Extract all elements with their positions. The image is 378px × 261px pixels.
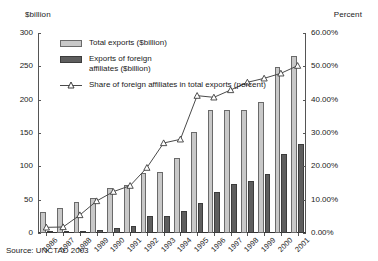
left-tick-mark <box>38 33 41 34</box>
x-tick-mark <box>147 233 148 236</box>
share-line-marker <box>94 198 100 204</box>
x-axis-label: 1995 <box>192 236 210 254</box>
right-tick-label: 40.00% <box>311 96 338 104</box>
left-axis-title: $billion <box>25 10 51 19</box>
right-tick-label: 60.00% <box>311 29 338 37</box>
left-tick-label: 0 <box>29 229 33 237</box>
x-axis-label: 1994 <box>175 236 193 254</box>
x-axis-label: 2001 <box>293 236 311 254</box>
left-tick-label: 200 <box>20 96 33 104</box>
left-tick-mark <box>38 200 41 201</box>
share-line-marker <box>278 70 284 76</box>
legend-item-share-line: Share of foreign affiliates in total exp… <box>60 80 266 90</box>
right-tick-label: 30.00% <box>311 129 338 137</box>
line-marker-icon <box>60 81 82 90</box>
legend-label-affiliate-exports: Exports of foreign affiliates ($billion) <box>89 54 152 74</box>
x-tick-mark <box>63 233 64 236</box>
right-tick-label: 20.00% <box>311 162 338 170</box>
right-axis-title: Percent <box>334 10 362 19</box>
share-line-marker <box>110 189 116 195</box>
share-line-marker <box>144 165 150 171</box>
x-axis-label: 1996 <box>209 236 227 254</box>
right-tick-mark <box>303 66 306 67</box>
x-axis-label: 1998 <box>242 236 260 254</box>
x-axis-label: 1993 <box>159 236 177 254</box>
x-axis-label: 1997 <box>226 236 244 254</box>
legend-label-total-exports: Total exports ($billion) <box>89 38 167 48</box>
right-tick-label: 10.00% <box>311 196 338 204</box>
x-tick-mark <box>97 233 98 236</box>
left-tick-label: 100 <box>20 162 33 170</box>
right-tick-label: 50.00% <box>311 62 338 70</box>
share-line-marker <box>177 136 183 142</box>
right-tick-mark <box>303 133 306 134</box>
legend-item-total-exports: Total exports ($billion) <box>60 38 266 48</box>
source-note: Source: UNCTAD 2003 <box>6 246 89 255</box>
legend-item-affiliate-exports: Exports of foreign affiliates ($billion) <box>60 54 266 74</box>
x-tick-mark <box>214 233 215 236</box>
left-tick-mark <box>38 66 41 67</box>
left-tick-label: 150 <box>20 129 33 137</box>
left-tick-mark <box>38 166 41 167</box>
right-tick-label: 0.00% <box>311 229 334 237</box>
right-tick-mark <box>303 100 306 101</box>
share-line-marker <box>295 63 301 69</box>
right-tick-mark <box>303 233 306 234</box>
x-tick-mark <box>180 233 181 236</box>
x-axis-label: 1999 <box>259 236 277 254</box>
left-tick-mark <box>38 233 41 234</box>
x-tick-mark <box>46 233 47 236</box>
x-axis-label: 1990 <box>108 236 126 254</box>
x-axis-label: 1992 <box>142 236 160 254</box>
left-tick-mark <box>38 100 41 101</box>
legend-swatch-share-line <box>60 81 82 90</box>
x-tick-mark <box>298 233 299 236</box>
x-tick-mark <box>130 233 131 236</box>
x-tick-mark <box>247 233 248 236</box>
legend-swatch-total-exports <box>60 40 82 47</box>
x-axis-label: 1991 <box>125 236 143 254</box>
legend-swatch-affiliate-exports <box>60 56 82 63</box>
x-tick-mark <box>164 233 165 236</box>
legend-label-share-line: Share of foreign affiliates in total exp… <box>89 80 266 90</box>
x-tick-mark <box>113 233 114 236</box>
x-tick-mark <box>264 233 265 236</box>
right-tick-mark <box>303 200 306 201</box>
x-tick-mark <box>197 233 198 236</box>
x-axis-label: 1989 <box>92 236 110 254</box>
chart-legend: Total exports ($billion) Exports of fore… <box>60 38 266 96</box>
x-tick-mark <box>281 233 282 236</box>
right-tick-mark <box>303 166 306 167</box>
left-tick-label: 250 <box>20 62 33 70</box>
x-tick-mark <box>231 233 232 236</box>
chart-figure: $billion Percent 050100150200250300 0.00… <box>0 0 378 261</box>
x-tick-mark <box>80 233 81 236</box>
left-tick-mark <box>38 133 41 134</box>
x-axis-label: 2000 <box>276 236 294 254</box>
left-tick-label: 300 <box>20 29 33 37</box>
left-tick-label: 50 <box>24 196 33 204</box>
right-tick-mark <box>303 33 306 34</box>
